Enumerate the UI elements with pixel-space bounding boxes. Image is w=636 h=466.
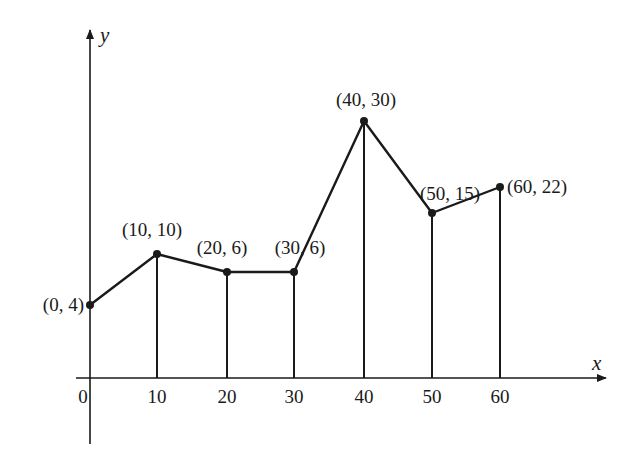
x-tick-label: 20: [218, 386, 237, 407]
data-point: [428, 209, 436, 217]
x-tick-label: 30: [285, 386, 304, 407]
point-label: (60, 22): [507, 176, 567, 198]
x-tick-label: 0: [78, 386, 88, 407]
point-label: (10, 10): [122, 219, 182, 241]
x-tick-label: 50: [423, 386, 442, 407]
point-label: (50, 15): [420, 183, 480, 205]
data-point: [86, 301, 94, 309]
point-label: (20, 6): [197, 237, 248, 259]
x-tick-label: 60: [491, 386, 510, 407]
point-label: (30, 6): [275, 237, 326, 259]
point-label: (0, 4): [43, 294, 84, 316]
x-tick-label: 40: [355, 386, 374, 407]
x-tick-labels: 0102030405060: [78, 386, 509, 407]
data-point: [290, 268, 298, 276]
data-point: [153, 250, 161, 258]
point-label: (40, 30): [336, 89, 396, 111]
data-point: [360, 117, 368, 125]
data-point: [496, 183, 504, 191]
x-tick-label: 10: [148, 386, 167, 407]
y-axis-label: y: [98, 23, 110, 47]
data-point: [223, 268, 231, 276]
trapezoid-line-chart: x y 0102030405060 (0, 4)(10, 10)(20, 6)(…: [0, 0, 636, 466]
x-axis-label: x: [591, 351, 602, 375]
